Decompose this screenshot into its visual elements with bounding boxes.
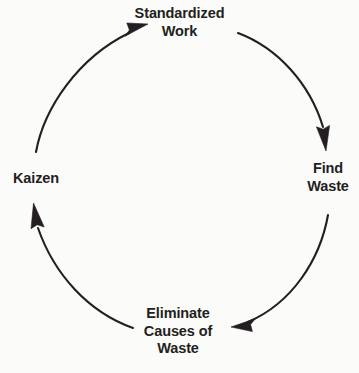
node-label-eliminate-causes-of-waste-line-3: Waste [118, 340, 238, 358]
arrow-find-to-eliminate [231, 215, 328, 332]
node-label-kaizen: Kaizen [3, 170, 69, 188]
arrow-eliminate-to-kaizen-head [31, 203, 44, 229]
node-label-standardized-work: Standardized Work [0, 5, 359, 40]
node-label-kaizen-line-1: Kaizen [3, 170, 69, 188]
arrow-kaizen-to-standardized [36, 23, 148, 152]
arrow-standardized-to-find-head [316, 125, 329, 151]
node-label-standardized-work-line-1: Standardized [0, 5, 359, 23]
node-label-standardized-work-line-2: Work [0, 23, 359, 41]
node-label-eliminate-causes-of-waste-line-2: Causes of [118, 323, 238, 341]
node-label-eliminate-causes-of-waste-line-1: Eliminate [118, 305, 238, 323]
cycle-diagram: Standardized Work Find Waste Eliminate C… [0, 0, 359, 373]
node-label-find-waste-line-2: Waste [299, 178, 357, 196]
arrow-standardized-to-find [238, 33, 330, 151]
arrow-kaizen-to-standardized-path [36, 33, 129, 152]
node-label-find-waste: Find Waste [299, 160, 357, 195]
arrow-standardized-to-find-path [238, 33, 323, 127]
node-label-eliminate-causes-of-waste: Eliminate Causes of Waste [118, 305, 238, 358]
arrow-find-to-eliminate-path [248, 215, 328, 322]
node-label-find-waste-line-1: Find [299, 160, 357, 178]
